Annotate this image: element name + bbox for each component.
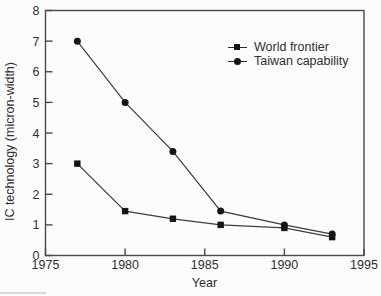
- x-tick-label: 1985: [191, 258, 219, 272]
- data-point-marker: [217, 222, 223, 228]
- x-tick-label: 1990: [270, 258, 298, 272]
- y-tick-label: 8: [33, 4, 40, 18]
- x-tick-label: 1995: [350, 258, 378, 272]
- data-point-marker: [122, 208, 128, 214]
- legend-item-taiwan-capability: Taiwan capability: [228, 54, 349, 68]
- data-point-marker: [74, 160, 80, 166]
- legend-item-world-frontier: World frontier: [228, 40, 349, 54]
- y-tick-label: 1: [33, 218, 40, 232]
- y-tick-label: 3: [33, 157, 40, 171]
- y-tick-label: 2: [33, 188, 40, 202]
- data-point-marker: [281, 221, 288, 228]
- data-point-marker: [217, 208, 224, 215]
- circle-marker-icon: [228, 57, 247, 66]
- x-axis-label: Year: [45, 276, 364, 290]
- chart-figure: 01234567819751980198519901995 IC technol…: [0, 0, 381, 296]
- y-tick-label: 5: [33, 96, 40, 110]
- y-tick-label: 4: [33, 127, 40, 141]
- legend: World frontier Taiwan capability: [228, 40, 349, 68]
- legend-label: World frontier: [254, 40, 329, 54]
- data-point-marker: [329, 231, 336, 238]
- data-point-marker: [169, 148, 176, 155]
- data-point-marker: [170, 216, 176, 222]
- square-marker-icon: [228, 43, 247, 52]
- x-tick-label: 1975: [32, 258, 60, 272]
- y-axis-label: IC technology (micron-width): [3, 62, 17, 221]
- y-tick-label: 6: [33, 65, 40, 79]
- series-line-world-frontier: [77, 164, 332, 238]
- x-tick-label: 1980: [111, 258, 139, 272]
- series-line-taiwan-capability: [77, 41, 332, 234]
- data-point-marker: [122, 99, 129, 106]
- legend-label: Taiwan capability: [254, 54, 349, 68]
- scan-artifact-line: [0, 292, 46, 294]
- y-tick-label: 7: [33, 35, 40, 49]
- data-point-marker: [74, 38, 81, 45]
